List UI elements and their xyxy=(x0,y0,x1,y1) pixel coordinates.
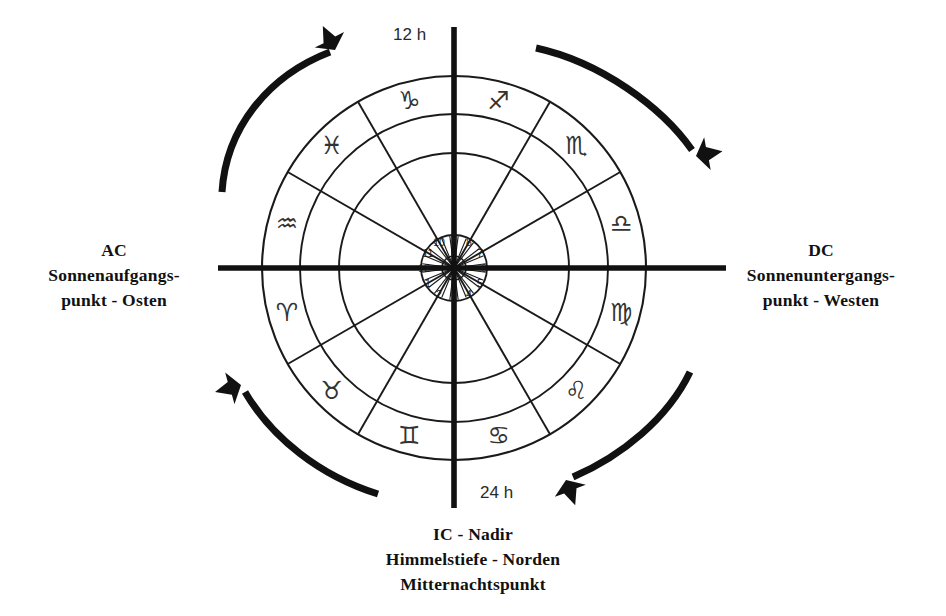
arrow-bottom-right-shaft xyxy=(573,372,690,477)
house-number-5: 5 xyxy=(477,277,483,289)
zodiac-glyph-leo: ♌ xyxy=(565,376,587,405)
zodiac-glyph-scorpio: ♏ xyxy=(565,131,587,160)
house-number-3: 3 xyxy=(451,292,457,304)
house-number-8: 8 xyxy=(466,236,472,248)
ic-line1: IC - Nadir xyxy=(300,522,646,547)
house-number-10: 10 xyxy=(433,236,445,248)
arrow-top-left-head xyxy=(315,25,344,55)
arrow-top-left-shaft xyxy=(222,52,330,192)
ascendant-code: AC xyxy=(14,238,214,263)
arrow-top-right-head xyxy=(691,137,724,170)
wheel-axes xyxy=(218,27,726,508)
house-number-4: 4 xyxy=(466,288,472,300)
zodiac-glyph-taurus: ♉ xyxy=(320,376,342,405)
zodiac-glyph-gemini: ♊ xyxy=(398,421,420,450)
descendant-line1: Sonnenuntergangs- xyxy=(712,263,930,288)
ic-line2: Himmelstiefe - Norden xyxy=(300,547,646,572)
zodiac-glyph-aquarius: ♒ xyxy=(276,209,298,238)
zodiac-glyph-virgo: ♍ xyxy=(610,298,632,327)
arrow-top-right-shaft xyxy=(536,48,692,150)
arrow-bottom-right-head xyxy=(555,475,586,506)
zodiac-glyph-aries: ♈ xyxy=(276,298,298,327)
descendant-line2: punkt - Westen xyxy=(712,288,930,313)
zodiac-glyph-capricorn: ♑ xyxy=(398,86,420,115)
ascendant-line2: punkt - Osten xyxy=(14,288,214,313)
ascendant-line1: Sonnenaufgangs- xyxy=(14,263,214,288)
house-number-1: 1 xyxy=(425,277,431,289)
arrow-bottom-left-head xyxy=(214,372,246,404)
zodiac-glyph-sagittarius: ♐ xyxy=(488,86,510,115)
house-number-11: 11 xyxy=(423,247,434,259)
descendant-code: DC xyxy=(712,238,930,263)
ascendant-label: AC Sonnenaufgangs- punkt - Osten xyxy=(14,238,214,313)
imum-coeli-label: IC - Nadir Himmelstiefe - Norden Mittern… xyxy=(300,522,646,597)
zodiac-glyph-pisces: ♓ xyxy=(320,131,342,160)
diagram-canvas: ♒♑♐♏♎♍♌♋♊♉♈♓ 121234567891011 12 h 24 h A… xyxy=(0,0,946,616)
house-number-2: 2 xyxy=(436,288,442,300)
house-number-6: 6 xyxy=(481,262,487,274)
house-number-7: 7 xyxy=(477,247,483,259)
hour-label-bottom: 24 h xyxy=(480,483,513,503)
zodiac-glyph-libra: ♎ xyxy=(610,209,632,238)
hour-label-top: 12 h xyxy=(393,25,426,45)
house-number-9: 9 xyxy=(451,232,457,244)
zodiac-glyph-cancer: ♋ xyxy=(488,421,510,450)
ic-line3: Mitternachtspunkt xyxy=(300,572,646,597)
house-number-12: 12 xyxy=(418,262,430,274)
arrow-bottom-left-shaft xyxy=(245,392,378,494)
descendant-label: DC Sonnenuntergangs- punkt - Westen xyxy=(712,238,930,313)
